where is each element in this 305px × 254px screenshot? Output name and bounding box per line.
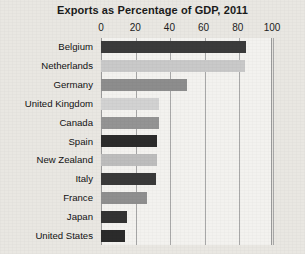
category-label: Netherlands [0,60,93,71]
gridline [273,38,274,245]
category-label: Italy [0,173,93,184]
bar [101,98,159,110]
x-axis-tick-labels: 020406080100 [101,22,272,36]
category-label: France [0,192,93,203]
bar [101,154,157,166]
bar-row [101,132,272,151]
bar-row [101,57,272,76]
category-label: Canada [0,117,93,128]
x-tick-label: 60 [198,22,209,33]
category-label: United States [0,230,93,241]
category-label: Germany [0,79,93,90]
category-label: New Zealand [0,154,93,165]
bar [101,79,187,91]
x-tick-label: 40 [164,22,175,33]
bar [101,230,125,242]
category-label: Belgium [0,41,93,52]
bar-row [101,151,272,170]
bar-row [101,226,272,245]
bar [101,192,147,204]
bar-row [101,94,272,113]
bar [101,135,157,147]
category-label: Spain [0,136,93,147]
bars-layer [101,38,272,245]
x-tick-label: 100 [264,22,281,33]
bar [101,117,159,129]
bar-row [101,76,272,95]
x-tick-label: 0 [98,22,104,33]
bar [101,60,245,72]
bar-row [101,207,272,226]
bar [101,41,246,53]
bar-row [101,189,272,208]
x-tick-label: 20 [130,22,141,33]
chart-title: Exports as Percentage of GDP, 2011 [0,4,305,16]
category-label: Japan [0,211,93,222]
category-label: United Kingdom [0,98,93,109]
bar-row [101,38,272,57]
x-tick-label: 80 [232,22,243,33]
chart-figure: Exports as Percentage of GDP, 2011 02040… [0,0,305,254]
bar-row [101,113,272,132]
category-labels: BelgiumNetherlandsGermanyUnited KingdomC… [0,38,97,245]
bar [101,173,156,185]
bar [101,211,127,223]
bar-row [101,170,272,189]
